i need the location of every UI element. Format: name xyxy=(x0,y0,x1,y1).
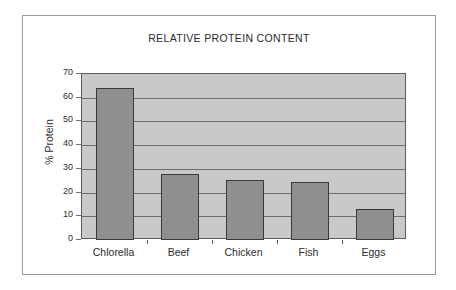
plot-area xyxy=(81,73,406,239)
y-axis-tick-label: 60 xyxy=(35,91,73,101)
bar xyxy=(96,88,134,240)
x-axis-separator xyxy=(277,240,278,244)
y-axis-tick-label: 70 xyxy=(35,67,73,77)
y-axis-tick-label: 20 xyxy=(35,186,73,196)
x-axis-tick-label: Beef xyxy=(146,246,211,258)
y-axis-tick-label: 0 xyxy=(35,233,73,243)
x-axis-separator xyxy=(342,240,343,244)
y-axis-tick-mark xyxy=(76,239,81,240)
y-axis-tick-label: 40 xyxy=(35,138,73,148)
x-axis-tick-label: Chicken xyxy=(211,246,276,258)
y-axis-tick-label: 50 xyxy=(35,114,73,124)
figure-frame: RELATIVE PROTEIN CONTENT % Protein 70605… xyxy=(22,15,436,275)
chart-figure: RELATIVE PROTEIN CONTENT % Protein 70605… xyxy=(0,0,456,290)
y-axis-tick-label: 10 xyxy=(35,209,73,219)
x-axis-separator xyxy=(147,240,148,244)
bar xyxy=(291,182,329,240)
y-axis-tick-label: 30 xyxy=(35,162,73,172)
x-axis-tick-label: Chlorella xyxy=(81,246,146,258)
chart-title: RELATIVE PROTEIN CONTENT xyxy=(23,32,435,44)
bar xyxy=(161,174,199,240)
x-axis-tick-label: Fish xyxy=(276,246,341,258)
bar xyxy=(226,180,264,240)
bar xyxy=(356,209,394,240)
x-axis-tick-label: Eggs xyxy=(341,246,406,258)
x-axis-separator xyxy=(212,240,213,244)
